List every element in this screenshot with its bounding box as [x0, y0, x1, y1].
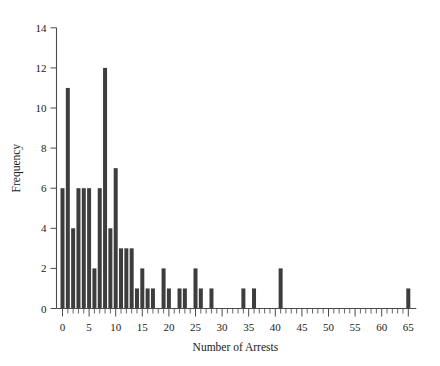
histogram-bar: [87, 188, 91, 308]
histogram-bar: [252, 288, 256, 308]
x-tick-label: 35: [243, 321, 255, 333]
x-tick-label: 15: [137, 321, 149, 333]
histogram-bar: [209, 288, 213, 308]
x-axis-minor-ticks: [68, 309, 403, 314]
histogram-bar: [98, 188, 102, 308]
histogram-bar: [199, 288, 203, 308]
y-tick-label: 2: [41, 262, 47, 274]
y-tick-label: 0: [41, 303, 47, 315]
y-axis-title: Frequency: [10, 144, 23, 193]
x-tick-label: 25: [190, 321, 202, 333]
histogram-bar: [119, 248, 123, 308]
x-tick-label: 40: [270, 321, 282, 333]
chart-canvas: 02468101214 05101520253035404550556065 N…: [0, 0, 440, 366]
histogram-bar: [162, 268, 166, 308]
histogram-bar: [194, 268, 198, 308]
x-tick-label: 5: [86, 321, 92, 333]
histogram-bar: [61, 188, 65, 308]
histogram-bar: [279, 268, 283, 308]
histogram-bar: [92, 268, 96, 308]
bar-series: [61, 68, 411, 309]
histogram-bar: [140, 268, 144, 308]
x-tick-label: 65: [403, 321, 415, 333]
x-tick-label: 10: [110, 321, 122, 333]
histogram-bar: [167, 288, 171, 308]
histogram-bar: [135, 288, 139, 308]
x-axis-major-ticks: 05101520253035404550556065: [60, 309, 415, 333]
x-tick-label: 45: [296, 321, 308, 333]
y-tick-label: 6: [41, 182, 47, 194]
histogram-bar: [241, 288, 245, 308]
y-tick-label: 14: [36, 22, 48, 34]
x-tick-label: 55: [350, 321, 362, 333]
histogram-bar: [124, 248, 128, 308]
histogram-bar: [114, 168, 118, 308]
x-tick-label: 0: [60, 321, 66, 333]
y-axis-ticks: 02468101214: [36, 22, 57, 315]
x-tick-label: 60: [376, 321, 388, 333]
x-axis-title: Number of Arrests: [193, 341, 279, 353]
x-tick-label: 50: [323, 321, 335, 333]
histogram-bar: [406, 288, 410, 308]
histogram-bar: [71, 228, 75, 308]
histogram-bar: [183, 288, 187, 308]
histogram-bar: [146, 288, 150, 308]
y-tick-label: 8: [41, 142, 47, 154]
histogram-bar: [103, 68, 107, 309]
histogram-chart: 02468101214 05101520253035404550556065 N…: [0, 0, 440, 366]
histogram-bar: [130, 248, 134, 308]
histogram-bar: [82, 188, 86, 308]
x-tick-label: 30: [217, 321, 229, 333]
histogram-bar: [76, 188, 80, 308]
y-tick-label: 4: [41, 222, 47, 234]
histogram-bar: [108, 228, 112, 308]
histogram-bar: [66, 88, 70, 309]
histogram-bar: [151, 288, 155, 308]
y-tick-label: 12: [36, 62, 47, 74]
y-tick-label: 10: [36, 102, 48, 114]
x-tick-label: 20: [163, 321, 175, 333]
histogram-bar: [178, 288, 182, 308]
